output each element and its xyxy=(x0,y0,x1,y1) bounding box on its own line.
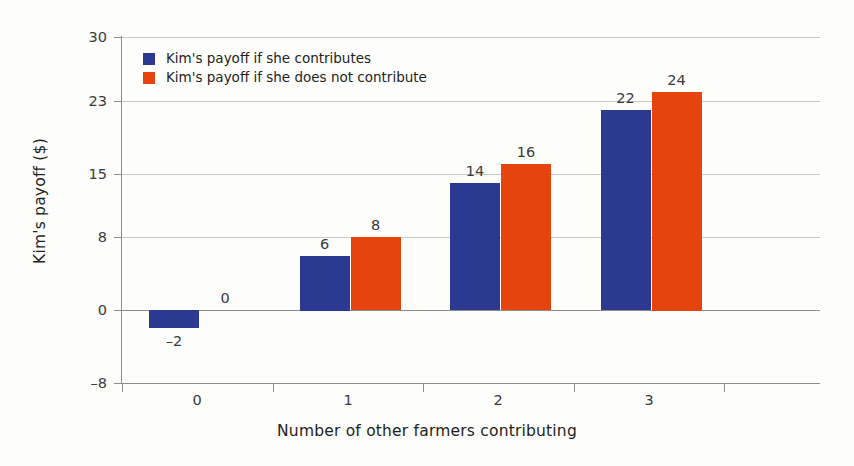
bar[interactable] xyxy=(652,92,702,311)
bar-value-label: 6 xyxy=(295,237,355,252)
y-axis-tick-label: 23 xyxy=(67,94,107,109)
legend-item[interactable]: Kim's payoff if she contributes xyxy=(143,50,427,68)
bar-value-label: 24 xyxy=(647,73,707,88)
bar-chart-figure: Kim's payoff ($) 30231580–8 0123 Number … xyxy=(0,0,854,466)
x-axis-tick xyxy=(122,384,123,392)
chart-legend: Kim's payoff if she contributes Kim's pa… xyxy=(143,50,427,88)
y-axis-tick xyxy=(114,174,122,175)
bar-value-label: 22 xyxy=(596,91,656,106)
y-axis-tick xyxy=(114,383,122,384)
y-axis-tick xyxy=(114,237,122,238)
legend-label: Kim's payoff if she does not contribute xyxy=(166,71,427,85)
y-axis-tick-label: 0 xyxy=(67,303,107,318)
bar[interactable] xyxy=(501,164,551,310)
y-axis-tick xyxy=(114,310,122,311)
bar[interactable] xyxy=(149,310,199,328)
legend-item[interactable]: Kim's payoff if she does not contribute xyxy=(143,69,427,87)
x-axis-tick-label: 0 xyxy=(167,392,227,408)
x-axis-tick-label: 2 xyxy=(468,392,528,408)
y-axis-tick-label: 8 xyxy=(67,230,107,245)
y-axis-tick-label: 15 xyxy=(67,167,107,182)
x-axis-tick-label: 1 xyxy=(318,392,378,408)
x-axis-tick xyxy=(423,384,424,392)
bar-value-label: 8 xyxy=(346,218,406,233)
gridline xyxy=(122,383,820,384)
bar-value-label: 14 xyxy=(445,164,505,179)
x-axis-tick xyxy=(724,384,725,392)
bar[interactable] xyxy=(351,237,401,310)
x-axis-tick-label: 3 xyxy=(619,392,679,408)
x-axis-title: Number of other farmers contributing xyxy=(0,422,854,440)
x-axis-tick xyxy=(273,384,274,392)
legend-swatch-red-icon xyxy=(143,72,155,84)
bar-value-label: 0 xyxy=(195,291,255,306)
y-axis-title: Kim's payoff ($) xyxy=(31,101,49,301)
bar[interactable] xyxy=(300,256,350,311)
y-axis-tick-label: –8 xyxy=(67,376,107,391)
bar[interactable] xyxy=(601,110,651,310)
bar[interactable] xyxy=(450,183,500,310)
legend-label: Kim's payoff if she contributes xyxy=(166,52,371,66)
legend-swatch-blue-icon xyxy=(143,53,155,65)
y-axis-tick xyxy=(114,37,122,38)
y-axis-tick xyxy=(114,101,122,102)
x-axis-tick xyxy=(574,384,575,392)
bar-value-label: –2 xyxy=(144,334,204,349)
bar-value-label: 16 xyxy=(496,145,556,160)
y-axis-tick-label: 30 xyxy=(67,30,107,45)
